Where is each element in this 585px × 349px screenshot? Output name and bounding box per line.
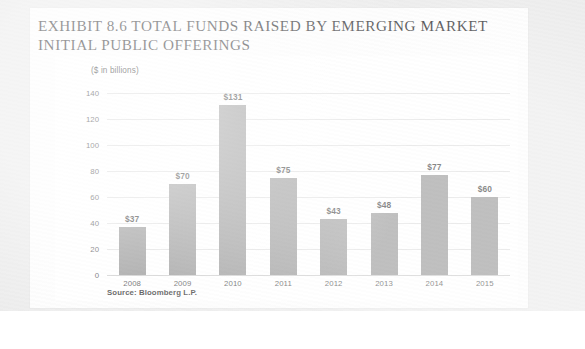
- y-axis-tick-label: 80: [66, 167, 106, 176]
- gridline: [107, 197, 510, 198]
- bar: [320, 219, 347, 275]
- x-axis-tick-label: 2011: [256, 279, 311, 288]
- gridline: [107, 145, 510, 146]
- bar-group: $602015: [471, 93, 498, 275]
- document-page: EXHIBIT 8.6 TOTAL FUNDS RAISED BY EMERGI…: [30, 8, 528, 308]
- bar-value-label: $70: [157, 171, 208, 181]
- x-axis-tick-label: 2012: [306, 279, 361, 288]
- gridline: [107, 223, 510, 224]
- bar-group: $432012: [320, 93, 347, 275]
- chart-container: ($ in billions) 020406080100120140 $3720…: [55, 56, 518, 301]
- bar-value-label: $43: [308, 206, 359, 216]
- bar-group: $702009: [169, 93, 196, 275]
- y-axis-tick-label: 20: [66, 245, 106, 254]
- bar: [421, 175, 448, 275]
- bar-group: $482013: [371, 93, 398, 275]
- bar-value-label: $37: [107, 214, 158, 224]
- bar: [270, 178, 297, 276]
- y-axis-tick-label: 40: [66, 219, 106, 228]
- source-note: Source: Bloomberg L.P.: [107, 288, 197, 297]
- bar-group: $1312010: [219, 93, 246, 275]
- gridline: [107, 249, 510, 250]
- bar: [119, 227, 146, 275]
- bar-value-label: $131: [207, 92, 258, 102]
- y-axis-tick-label: 140: [66, 89, 106, 98]
- x-axis-tick-label: 2013: [357, 279, 412, 288]
- gridline: [107, 119, 510, 120]
- y-axis-tick-label: 0: [66, 271, 106, 280]
- scanned-page-border: EXHIBIT 8.6 TOTAL FUNDS RAISED BY EMERGI…: [0, 0, 585, 311]
- y-axis-tick-label: 120: [66, 115, 106, 124]
- x-axis-tick-label: 2008: [105, 279, 160, 288]
- bar-value-label: $77: [409, 162, 460, 172]
- bar: [219, 105, 246, 275]
- gridline: [107, 93, 510, 94]
- bar-value-label: $75: [258, 165, 309, 175]
- x-axis-tick-label: 2010: [205, 279, 260, 288]
- bar: [169, 184, 196, 275]
- plot-area: 020406080100120140 $372008$702009$131201…: [107, 93, 510, 275]
- y-axis-tick-label: 60: [66, 193, 106, 202]
- bar-value-label: $48: [359, 200, 410, 210]
- bar-value-label: $60: [459, 184, 510, 194]
- x-axis-tick-label: 2015: [457, 279, 512, 288]
- x-axis-tick-label: 2014: [407, 279, 462, 288]
- bar-group: $752011: [270, 93, 297, 275]
- gridline: [107, 275, 510, 276]
- bar: [371, 213, 398, 275]
- x-axis-tick-label: 2009: [155, 279, 210, 288]
- bar: [471, 197, 498, 275]
- page-title: EXHIBIT 8.6 TOTAL FUNDS RAISED BY EMERGI…: [38, 17, 524, 54]
- y-axis-tick-label: 100: [66, 141, 106, 150]
- chart-units-label: ($ in billions): [91, 66, 139, 75]
- bar-group: $372008: [119, 93, 146, 275]
- bar-group: $772014: [421, 93, 448, 275]
